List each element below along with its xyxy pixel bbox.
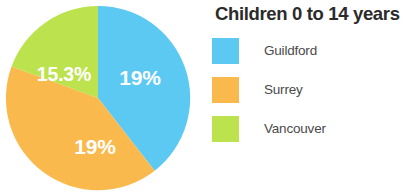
pie-label-guildford: 19%: [119, 66, 161, 89]
pie-chart-svg: 19% 19% 15.3%: [0, 0, 206, 195]
legend-label-vancouver: Vancouver: [264, 119, 326, 138]
legend: Guildford Surrey Vancouver: [212, 38, 416, 155]
color-swatch-icon-guildford: [212, 38, 239, 64]
legend-label-guildford: Guildford: [264, 41, 317, 60]
legend-label-surrey: Surrey: [264, 80, 303, 99]
pie-chart-area: 19% 19% 15.3%: [0, 0, 206, 195]
pie-label-vancouver: 15.3%: [37, 63, 91, 85]
pie-chart-figure: 19% 19% 15.3% Children 0 to 14 years Gui…: [0, 0, 416, 195]
pie-label-surrey: 19%: [74, 135, 116, 158]
legend-item-vancouver[interactable]: Vancouver: [212, 116, 416, 142]
legend-item-guildford[interactable]: Guildford: [212, 38, 416, 64]
legend-item-surrey[interactable]: Surrey: [212, 77, 416, 103]
color-swatch-icon-surrey: [212, 77, 239, 103]
legend-panel: Children 0 to 14 years Guildford Surrey …: [206, 0, 416, 195]
chart-title: Children 0 to 14 years: [215, 3, 415, 25]
color-swatch-icon-vancouver: [212, 116, 239, 142]
